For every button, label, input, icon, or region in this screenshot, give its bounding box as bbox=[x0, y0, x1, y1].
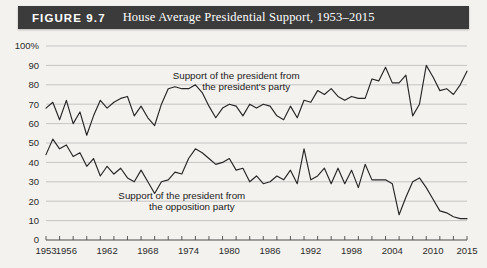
figure-number-label: FIGURE 9.7 bbox=[32, 12, 106, 24]
y-axis-tick-labels: 100%9080706050403020100 bbox=[15, 40, 40, 245]
x-axis-tick-label: 1956 bbox=[56, 245, 77, 256]
x-axis-tick-label: 1992 bbox=[300, 245, 321, 256]
x-axis-tick-label: 1974 bbox=[178, 245, 199, 256]
y-axis-tick-label: 10 bbox=[28, 215, 39, 226]
y-axis-tick-label: 30 bbox=[28, 176, 39, 187]
x-axis-tick-label: 2015 bbox=[456, 245, 477, 256]
y-axis-tick-label: 40 bbox=[28, 157, 39, 168]
y-axis-tick-label: 100% bbox=[15, 40, 40, 51]
opposition-party-annotation-line2: the opposition party bbox=[149, 201, 235, 212]
series-line-opposition-party bbox=[46, 139, 467, 219]
chart-annotations-group: Support of the president fromthe preside… bbox=[118, 70, 299, 212]
x-axis-tick-label: 1962 bbox=[97, 245, 118, 256]
presidential-support-line-chart: 100%9080706050403020100 1953195619621968… bbox=[0, 33, 487, 268]
x-axis-tick-label: 1953 bbox=[35, 245, 56, 256]
x-axis-tick-label: 1980 bbox=[219, 245, 240, 256]
y-axis-tick-label: 0 bbox=[34, 234, 39, 245]
opposition-party-annotation-line1: Support of the president from bbox=[118, 190, 245, 201]
x-axis-tick-label: 1998 bbox=[341, 245, 362, 256]
chart-plot-area: 100%9080706050403020100 1953195619621968… bbox=[0, 33, 487, 268]
y-axis-tick-label: 90 bbox=[28, 60, 39, 71]
x-axis-tick-label: 1986 bbox=[260, 245, 281, 256]
y-axis-tick-label: 70 bbox=[28, 99, 39, 110]
presidents-party-annotation-line1: Support of the president from bbox=[173, 70, 300, 81]
x-axis-tick-label: 2004 bbox=[382, 245, 403, 256]
figure-title-text: House Average Presidential Support, 1953… bbox=[123, 10, 375, 25]
x-axis-tick-label: 2010 bbox=[422, 245, 443, 256]
x-axis-tick-labels: 1953195619621968197419801986199219982004… bbox=[35, 245, 477, 256]
figure-title-bar: FIGURE 9.7 House Average Presidential Su… bbox=[18, 6, 469, 29]
y-axis-tick-label: 20 bbox=[28, 196, 39, 207]
x-axis bbox=[46, 236, 467, 240]
y-axis-tick-label: 50 bbox=[28, 137, 39, 148]
y-axis-tick-label: 60 bbox=[28, 118, 39, 129]
presidents-party-annotation-line2: the president's party bbox=[202, 81, 290, 92]
y-axis-tick-label: 80 bbox=[28, 79, 39, 90]
x-axis-tick-label: 1968 bbox=[137, 245, 158, 256]
figure-page: FIGURE 9.7 House Average Presidential Su… bbox=[0, 0, 487, 268]
